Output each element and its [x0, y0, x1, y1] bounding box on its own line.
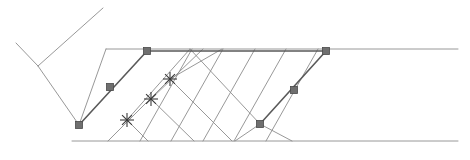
figure-background — [0, 0, 470, 160]
marker-square-5 — [291, 87, 298, 94]
marker-star-1 — [120, 113, 134, 127]
marker-square-2 — [107, 84, 114, 91]
marker-star-2 — [144, 92, 158, 106]
marker-star-3 — [163, 72, 177, 86]
marker-square-4 — [323, 48, 330, 55]
marker-square-1 — [76, 122, 83, 129]
marker-square-6 — [257, 121, 264, 128]
figure-root — [0, 0, 470, 160]
marker-square-3 — [144, 48, 151, 55]
ray-path-diagram — [0, 0, 470, 160]
